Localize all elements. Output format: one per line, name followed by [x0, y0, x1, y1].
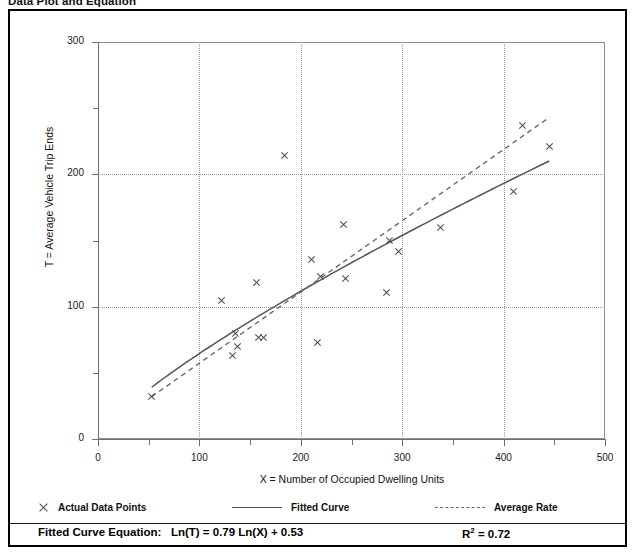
y-axis-tick-label: 100: [50, 300, 84, 311]
x-axis-tick-label: 500: [583, 452, 627, 463]
data-point: [394, 247, 403, 256]
x-marker-icon: [38, 502, 49, 513]
plot-region: 01002003000100200300400500 T = Average V…: [10, 11, 625, 491]
data-point: [436, 223, 445, 232]
x-axis-tick: [402, 439, 403, 446]
y-axis-tick-label: 200: [50, 167, 84, 178]
x-axis-minor-tick: [554, 440, 555, 445]
r-squared-value: R2 = 0.72: [462, 526, 510, 540]
data-point: [228, 351, 237, 360]
y-axis-minor-tick: [93, 241, 98, 242]
x-axis-tick: [98, 439, 99, 446]
solid-line-icon: [232, 507, 282, 508]
legend-label: Fitted Curve: [291, 502, 349, 513]
data-point: [313, 338, 322, 347]
data-point: [280, 151, 289, 160]
y-axis-minor-tick: [93, 373, 98, 374]
x-axis-tick: [199, 439, 200, 446]
gridline-vertical: [301, 42, 302, 439]
data-point: [316, 272, 325, 281]
data-point: [217, 296, 226, 305]
gridline-horizontal: [98, 307, 605, 308]
x-axis-tick-label: 400: [482, 452, 526, 463]
x-axis-minor-tick: [250, 440, 251, 445]
r-squared-exponent: 2: [470, 526, 474, 535]
x-axis-tick-label: 300: [380, 452, 424, 463]
fitted-curve-equation: Fitted Curve Equation: Ln(T) = 0.79 Ln(X…: [38, 526, 303, 538]
x-axis-minor-tick: [352, 440, 353, 445]
x-axis-tick-label: 200: [279, 452, 323, 463]
legend-item-actual-data-points: Actual Data Points: [38, 498, 146, 516]
data-point: [252, 278, 261, 287]
data-point: [231, 329, 240, 338]
data-point: [307, 255, 316, 264]
gridline-horizontal: [98, 174, 605, 175]
data-point: [385, 236, 394, 245]
equation-formula: Ln(T) = 0.79 Ln(X) + 0.53: [171, 526, 303, 538]
y-axis-line: [98, 42, 99, 440]
data-point: [233, 342, 242, 351]
data-point: [147, 392, 156, 401]
y-axis-tick: [92, 42, 99, 43]
plot-area: [98, 42, 605, 439]
equation-bar: Fitted Curve Equation: Ln(T) = 0.79 Ln(X…: [10, 524, 625, 546]
data-point: [509, 187, 518, 196]
y-axis-title: T = Average Vehicle Trip Ends: [43, 82, 55, 312]
data-point: [259, 333, 268, 342]
x-axis-minor-tick: [149, 440, 150, 445]
data-point: [339, 220, 348, 229]
x-axis-minor-tick: [453, 440, 454, 445]
legend-item-fitted-curve: Fitted Curve: [232, 498, 349, 516]
legend-label: Average Rate: [494, 502, 558, 513]
data-point: [341, 274, 350, 283]
x-axis-tick: [301, 439, 302, 446]
gridline-vertical: [199, 42, 200, 439]
x-axis-tick-label: 0: [76, 452, 120, 463]
gridline-vertical: [402, 42, 403, 439]
y-axis-tick: [92, 307, 99, 308]
equation-label: Fitted Curve Equation:: [38, 526, 161, 538]
dashed-line-icon: [435, 507, 485, 508]
legend: Actual Data Points Fitted Curve Average …: [10, 498, 625, 520]
x-axis-tick-label: 100: [177, 452, 221, 463]
x-axis-title: X = Number of Occupied Dwelling Units: [98, 473, 606, 485]
gridline-vertical: [504, 42, 505, 439]
x-axis-tick: [605, 439, 606, 446]
x-axis-tick: [504, 439, 505, 446]
y-axis-tick-label: 300: [50, 35, 84, 46]
legend-label: Actual Data Points: [58, 502, 146, 513]
data-point: [382, 288, 391, 297]
legend-item-average-rate: Average Rate: [435, 498, 558, 516]
y-axis-tick: [92, 174, 99, 175]
figure-frame: 01002003000100200300400500 T = Average V…: [8, 9, 627, 547]
r-squared-number: = 0.72: [478, 528, 510, 540]
y-axis-minor-tick: [93, 108, 98, 109]
data-point: [518, 121, 527, 130]
data-point: [545, 142, 554, 151]
y-axis-tick-label: 0: [50, 432, 84, 443]
